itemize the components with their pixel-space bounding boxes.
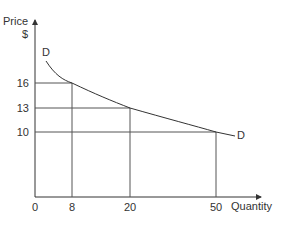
demand-curve-chart <box>0 0 286 226</box>
y-axis-label-line1: Price <box>3 16 28 27</box>
x-tick-20: 20 <box>118 202 142 213</box>
x-tick-50: 50 <box>204 202 228 213</box>
y-tick-10: 10 <box>3 127 29 138</box>
x-axis-label: Quantity <box>231 201 272 212</box>
y-tick-13: 13 <box>3 103 29 114</box>
y-axis-label-line2: $ <box>22 29 28 40</box>
demand-curve <box>46 61 235 136</box>
reference-lines <box>35 83 216 197</box>
x-tick-origin: 0 <box>23 202 47 213</box>
y-tick-16: 16 <box>3 78 29 89</box>
curve-label-end: D <box>237 130 245 141</box>
curve-label-start: D <box>42 47 50 58</box>
x-tick-8: 8 <box>60 202 84 213</box>
